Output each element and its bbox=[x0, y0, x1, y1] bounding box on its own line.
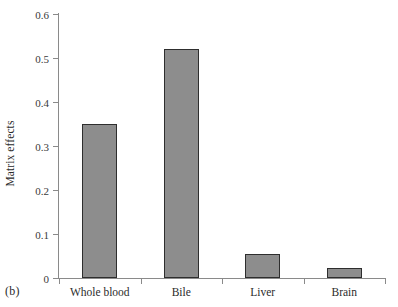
x-axis-tick bbox=[141, 279, 142, 284]
y-axis-tick-label: 0.3 bbox=[35, 141, 49, 153]
y-axis-tick-label: 0.5 bbox=[35, 53, 49, 65]
y-axis-tick-label: 0 bbox=[44, 273, 50, 285]
y-axis-tick: 0.3 bbox=[53, 146, 58, 147]
x-axis-category-label: Whole blood bbox=[70, 286, 130, 298]
y-axis-tick: 0.1 bbox=[53, 234, 58, 235]
y-axis-tick: 0.2 bbox=[53, 190, 58, 191]
y-axis-tick: 0 bbox=[53, 278, 58, 279]
y-axis-tick: 0.6 bbox=[53, 14, 58, 15]
x-axis-tick bbox=[304, 279, 305, 284]
y-axis-tick: 0.5 bbox=[53, 58, 58, 59]
bar bbox=[245, 254, 280, 278]
x-axis-tick bbox=[222, 279, 223, 284]
plot-area bbox=[59, 14, 385, 278]
y-axis-tick-label: 0.4 bbox=[35, 97, 49, 109]
y-axis-tick-label: 0.2 bbox=[35, 185, 49, 197]
y-axis-tick-label: 0.1 bbox=[35, 229, 49, 241]
bar bbox=[164, 49, 199, 278]
y-axis-tick-label: 0.6 bbox=[35, 9, 49, 21]
x-axis-category-label: Bile bbox=[172, 286, 191, 298]
bar bbox=[82, 124, 117, 278]
x-axis-tick bbox=[59, 279, 60, 284]
x-axis-tick bbox=[385, 279, 386, 284]
x-axis-category-label: Brain bbox=[331, 286, 357, 298]
y-axis-title: Matrix effects bbox=[0, 0, 20, 307]
bar bbox=[327, 268, 362, 278]
bar-chart-figure: (b) Matrix effects 00.10.20.30.40.50.6 W… bbox=[0, 0, 398, 307]
x-axis-category-label: Liver bbox=[250, 286, 275, 298]
y-axis-tick: 0.4 bbox=[53, 102, 58, 103]
